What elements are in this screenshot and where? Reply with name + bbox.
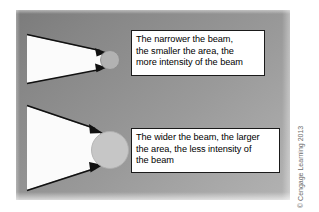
wide-beam-spot	[92, 132, 129, 169]
callout-line: more intensity of the beam	[136, 57, 260, 69]
callout-line: the smaller the area, the	[136, 46, 260, 58]
narrow-beam-callout: The narrower the beam, the smaller the a…	[131, 30, 265, 76]
figure-root: The narrower the beam, the smaller the a…	[0, 0, 319, 212]
copyright-credit: © Cengage Learning 2013	[296, 118, 305, 208]
callout-line: The wider the beam, the larger	[136, 132, 275, 144]
wide-beam-upper-arrowhead	[89, 124, 103, 134]
callout-line: the area, the less intensity of	[136, 144, 275, 156]
callout-line: the beam	[136, 155, 275, 167]
wide-beam-callout: The wider the beam, the larger the area,…	[131, 128, 280, 173]
narrow-beam-spot	[101, 51, 120, 70]
callout-line: The narrower the beam,	[136, 34, 260, 46]
